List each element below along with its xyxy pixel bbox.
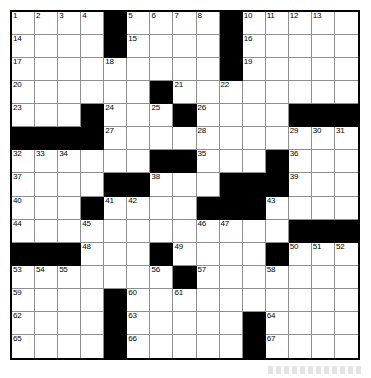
answer-cell[interactable]: 49 [173,243,196,266]
answer-cell[interactable] [150,312,173,335]
answer-cell[interactable] [81,289,104,312]
answer-cell[interactable] [312,35,335,58]
answer-cell[interactable] [335,173,358,196]
answer-cell[interactable]: 53 [12,266,35,289]
answer-cell[interactable]: 26 [197,104,220,127]
answer-cell[interactable] [335,81,358,104]
answer-cell[interactable] [58,35,81,58]
answer-cell[interactable] [335,12,358,35]
answer-cell[interactable]: 59 [12,289,35,312]
answer-cell[interactable] [266,35,289,58]
answer-cell[interactable] [81,312,104,335]
answer-cell[interactable] [289,266,312,289]
answer-cell[interactable] [220,312,243,335]
answer-cell[interactable] [150,197,173,220]
answer-cell[interactable] [173,335,196,358]
answer-cell[interactable] [58,173,81,196]
answer-cell[interactable] [266,127,289,150]
answer-cell[interactable]: 55 [58,266,81,289]
answer-cell[interactable] [197,243,220,266]
answer-cell[interactable] [220,335,243,358]
answer-cell[interactable]: 65 [12,335,35,358]
answer-cell[interactable] [127,220,150,243]
answer-cell[interactable] [312,173,335,196]
answer-cell[interactable] [243,289,266,312]
answer-cell[interactable]: 28 [197,127,220,150]
answer-cell[interactable]: 4 [81,12,104,35]
answer-cell[interactable] [104,266,127,289]
answer-cell[interactable]: 61 [173,289,196,312]
answer-cell[interactable]: 52 [335,243,358,266]
answer-cell[interactable] [243,220,266,243]
answer-cell[interactable] [289,35,312,58]
answer-cell[interactable] [312,312,335,335]
answer-cell[interactable] [150,127,173,150]
answer-cell[interactable] [266,220,289,243]
answer-cell[interactable] [312,266,335,289]
answer-cell[interactable] [220,266,243,289]
answer-cell[interactable] [335,58,358,81]
answer-cell[interactable]: 44 [12,220,35,243]
answer-cell[interactable] [104,150,127,173]
answer-cell[interactable] [312,197,335,220]
answer-cell[interactable] [35,173,58,196]
answer-cell[interactable] [81,335,104,358]
answer-cell[interactable] [58,58,81,81]
answer-cell[interactable] [197,289,220,312]
answer-cell[interactable] [58,81,81,104]
answer-cell[interactable] [220,150,243,173]
answer-cell[interactable] [173,173,196,196]
answer-cell[interactable]: 25 [150,104,173,127]
answer-cell[interactable] [243,243,266,266]
answer-cell[interactable] [220,127,243,150]
answer-cell[interactable] [197,335,220,358]
crossword-grid[interactable]: 1234567891011121314151617181920212223242… [10,10,360,360]
answer-cell[interactable]: 1 [12,12,35,35]
answer-cell[interactable] [58,289,81,312]
answer-cell[interactable] [197,312,220,335]
answer-cell[interactable]: 29 [289,127,312,150]
answer-cell[interactable]: 16 [243,35,266,58]
answer-cell[interactable]: 12 [289,12,312,35]
answer-cell[interactable] [173,312,196,335]
answer-cell[interactable]: 35 [197,150,220,173]
answer-cell[interactable]: 40 [12,197,35,220]
answer-cell[interactable]: 46 [197,220,220,243]
answer-cell[interactable] [127,243,150,266]
answer-cell[interactable] [197,35,220,58]
answer-cell[interactable] [173,58,196,81]
answer-cell[interactable] [289,58,312,81]
answer-cell[interactable]: 14 [12,35,35,58]
answer-cell[interactable]: 42 [127,197,150,220]
answer-cell[interactable] [173,127,196,150]
answer-cell[interactable]: 60 [127,289,150,312]
answer-cell[interactable] [220,243,243,266]
answer-cell[interactable] [150,220,173,243]
answer-cell[interactable]: 58 [266,266,289,289]
answer-cell[interactable] [197,81,220,104]
answer-cell[interactable] [35,58,58,81]
answer-cell[interactable] [150,58,173,81]
answer-cell[interactable] [289,335,312,358]
answer-cell[interactable] [81,81,104,104]
answer-cell[interactable]: 5 [127,12,150,35]
answer-cell[interactable] [150,289,173,312]
answer-cell[interactable]: 45 [81,220,104,243]
answer-cell[interactable] [220,104,243,127]
answer-cell[interactable]: 30 [312,127,335,150]
answer-cell[interactable] [289,81,312,104]
answer-cell[interactable]: 51 [312,243,335,266]
answer-cell[interactable]: 13 [312,12,335,35]
answer-cell[interactable]: 50 [289,243,312,266]
answer-cell[interactable] [243,81,266,104]
answer-cell[interactable] [312,81,335,104]
answer-cell[interactable]: 33 [35,150,58,173]
answer-cell[interactable] [58,197,81,220]
answer-cell[interactable] [104,243,127,266]
answer-cell[interactable] [289,312,312,335]
answer-cell[interactable]: 64 [266,312,289,335]
answer-cell[interactable] [35,197,58,220]
answer-cell[interactable] [35,81,58,104]
answer-cell[interactable]: 7 [173,12,196,35]
answer-cell[interactable] [81,173,104,196]
